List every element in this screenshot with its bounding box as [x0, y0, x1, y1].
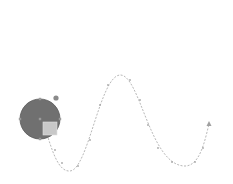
resize-handle[interactable] — [39, 98, 41, 100]
waypoint-dot — [77, 165, 79, 167]
waypoint-dot — [61, 162, 63, 164]
waypoint-dot — [54, 149, 56, 151]
rotate-handle-icon[interactable] — [53, 95, 58, 100]
waypoint-dot — [99, 104, 101, 106]
waypoint-dot — [147, 124, 149, 126]
inset-square — [43, 122, 57, 135]
waypoint-dot — [107, 84, 109, 86]
waypoint-dot — [129, 79, 131, 81]
waypoint-dot — [89, 139, 91, 141]
resize-handle[interactable] — [59, 118, 61, 120]
drawing-canvas[interactable] — [0, 0, 233, 184]
resize-handle[interactable] — [39, 118, 41, 120]
waypoint-dot — [157, 147, 159, 149]
waypoint-dot — [139, 99, 141, 101]
resize-handle[interactable] — [39, 138, 41, 140]
waypoint-dot — [194, 161, 196, 163]
resize-handle[interactable] — [19, 118, 21, 120]
waypoint-dot — [202, 147, 204, 149]
waypoint-dot — [171, 161, 173, 163]
